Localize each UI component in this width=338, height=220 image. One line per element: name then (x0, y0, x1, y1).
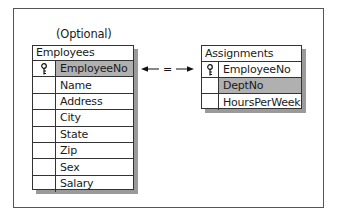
field-name: HoursPerWeek (219, 94, 301, 110)
key-cell (33, 110, 56, 125)
table-row: Sex (33, 159, 133, 175)
field-name: Sex (56, 159, 133, 174)
employees-table-title: Employees (33, 46, 133, 61)
key-cell (33, 94, 56, 109)
table-row: HoursPerWeek (202, 94, 301, 110)
relationship-arrow: = (141, 63, 194, 75)
field-name: State (56, 127, 133, 142)
table-row: City (33, 110, 133, 126)
key-icon (206, 64, 214, 76)
table-row: EmployeeNo (33, 61, 133, 77)
field-name: EmployeeNo (56, 61, 133, 76)
employees-table: Employees EmployeeNo Name Address City S… (32, 45, 134, 190)
table-row: Name (33, 77, 133, 93)
relationship-symbol: = (163, 63, 172, 75)
field-name: City (56, 110, 133, 125)
key-cell (33, 176, 56, 192)
assignments-table-title: Assignments (202, 46, 301, 62)
key-cell (202, 78, 219, 93)
optional-label: (Optional) (56, 27, 112, 41)
key-icon (40, 63, 48, 75)
field-name: Salary (56, 176, 133, 192)
field-name: Zip (56, 143, 133, 158)
table-row: EmployeeNo (202, 62, 301, 78)
key-cell (33, 159, 56, 174)
field-name: EmployeeNo (219, 62, 301, 77)
table-row: Zip (33, 143, 133, 159)
table-row: DeptNo (202, 78, 301, 94)
table-row: Salary (33, 176, 133, 192)
key-cell (33, 143, 56, 158)
table-row: State (33, 127, 133, 143)
field-name: Address (56, 94, 133, 109)
field-name: Name (56, 77, 133, 92)
key-cell (33, 77, 56, 92)
key-cell (202, 94, 219, 110)
table-row: Address (33, 94, 133, 110)
key-cell (33, 61, 56, 76)
key-cell (33, 127, 56, 142)
field-name: DeptNo (219, 78, 301, 93)
assignments-table: Assignments EmployeeNo DeptNo HoursPerWe… (201, 45, 302, 109)
key-cell (202, 62, 219, 77)
